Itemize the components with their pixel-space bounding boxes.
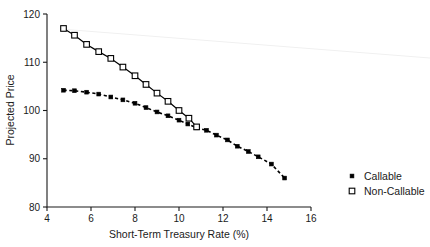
x-tick-label: 16 <box>305 213 317 224</box>
x-tick-label: 6 <box>88 213 94 224</box>
y-tick-label: 100 <box>23 105 40 116</box>
x-tick-label: 14 <box>261 213 273 224</box>
chart-container: 46810121416 8090100110120 Short-Term Tre… <box>0 0 430 247</box>
x-tick-label: 12 <box>217 213 229 224</box>
data-point-marker <box>61 26 67 32</box>
data-point-marker <box>154 90 160 96</box>
data-point-marker <box>155 110 159 114</box>
y-tick-label: 80 <box>29 202 41 213</box>
data-point-marker <box>73 89 77 93</box>
data-point-marker <box>62 88 66 92</box>
data-point-marker <box>165 99 171 105</box>
data-point-marker <box>205 128 209 132</box>
series-line-callable <box>64 90 285 178</box>
data-point-marker <box>283 176 287 180</box>
data-point-marker <box>143 82 149 88</box>
data-point-marker <box>246 150 250 154</box>
data-point-marker <box>186 122 190 126</box>
chart-plot-area: 46810121416 8090100110120 Short-Term Tre… <box>0 0 430 247</box>
data-point-marker <box>84 42 90 48</box>
data-point-marker <box>215 133 219 137</box>
data-point-marker <box>194 124 200 130</box>
scan-artifact-line <box>60 29 430 58</box>
x-axis-title: Short-Term Treasury Rate (%) <box>109 228 249 240</box>
data-point-marker <box>270 162 274 166</box>
x-tick-label: 10 <box>173 213 185 224</box>
y-tick-label: 120 <box>23 9 40 20</box>
data-point-marker <box>256 155 260 159</box>
data-point-marker <box>121 98 125 102</box>
data-point-marker <box>132 73 138 79</box>
data-point-marker <box>166 114 170 118</box>
legend-marker-callable <box>350 174 354 178</box>
data-point-marker <box>96 49 102 55</box>
data-point-marker <box>226 138 230 142</box>
data-point-marker <box>186 115 192 121</box>
data-point-marker <box>144 106 148 110</box>
data-point-marker <box>85 90 89 94</box>
y-axis-title: Projected Price <box>4 74 16 145</box>
y-tick-label: 90 <box>29 153 41 164</box>
data-point-marker <box>177 118 181 122</box>
data-point-marker <box>235 144 239 148</box>
x-axis-ticks: 46810121416 <box>44 207 317 224</box>
data-point-marker <box>108 56 114 62</box>
data-point-marker <box>133 101 137 105</box>
legend-label-non-callable: Non-Callable <box>364 185 425 197</box>
legend-marker-non-callable <box>349 188 355 194</box>
data-point-marker <box>120 64 126 70</box>
y-axis-ticks: 8090100110120 <box>23 9 47 213</box>
x-tick-label: 4 <box>44 213 50 224</box>
data-point-marker <box>176 108 182 114</box>
data-point-marker <box>109 95 113 99</box>
chart-legend: CallableNon-Callable <box>349 170 425 197</box>
x-tick-label: 8 <box>132 213 138 224</box>
y-tick-label: 110 <box>24 57 40 68</box>
legend-label-callable: Callable <box>364 170 402 182</box>
data-point-marker <box>72 32 78 38</box>
data-point-marker <box>97 92 101 96</box>
